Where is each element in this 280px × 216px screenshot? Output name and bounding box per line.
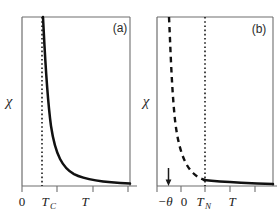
panel-b-label: (b): [252, 22, 267, 36]
panel-a-plot: χ (a) 0 T C T: [0, 0, 140, 216]
panel-a-xticks: [22, 186, 128, 192]
panel-b-curve-dashed: [169, 17, 205, 180]
theta-arrow-icon: [166, 168, 172, 186]
panel-b-xtick-zero: 0: [181, 194, 188, 209]
panel-b-ylabel: χ: [141, 93, 150, 109]
panel-a-xtick-zero: 0: [19, 194, 26, 209]
panel-a-xlabel: T: [81, 194, 89, 209]
panel-a-xtick-tc: T C: [41, 194, 57, 211]
panel-b-plot: χ (b) −θ 0 T N T: [140, 0, 280, 216]
panel-a-frame: [22, 17, 137, 186]
panel-a: χ (a) 0 T C T: [0, 0, 140, 216]
panel-b-xtick-tn: T N: [196, 194, 212, 211]
panel-b: χ (b) −θ 0 T N T: [140, 0, 280, 216]
panel-b-xtick-theta: −θ: [157, 194, 173, 209]
panel-b-frame: [157, 17, 277, 186]
panel-b-curve-solid: [204, 180, 273, 184]
panel-b-xtick-tn-sub: N: [204, 201, 212, 211]
panel-a-xtick-tc-sub: C: [50, 201, 57, 211]
panel-a-label: (a): [113, 21, 128, 35]
panel-a-xtick-tc-base: T: [41, 194, 49, 209]
panel-b-xticks: [157, 186, 255, 192]
panel-b-xtick-tn-base: T: [196, 194, 204, 209]
panel-a-ylabel: χ: [4, 93, 13, 109]
panel-a-curve: [43, 17, 130, 184]
figure-container: χ (a) 0 T C T: [0, 0, 280, 216]
panel-b-xlabel: T: [228, 194, 236, 209]
